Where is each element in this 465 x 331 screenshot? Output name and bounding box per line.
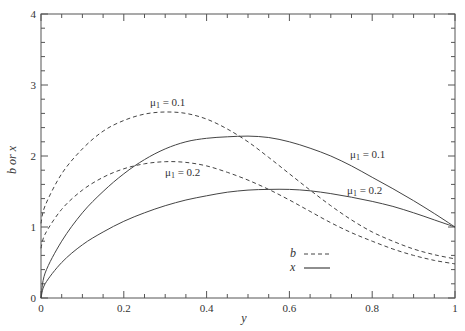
x-tick-label: 0.6 bbox=[283, 302, 297, 314]
axis-ticks bbox=[41, 14, 455, 298]
x-tick-label: 0.2 bbox=[117, 302, 131, 314]
annotation-x-mu-0.1: μ1 = 0.1 bbox=[350, 148, 385, 162]
line-chart: 00.20.40.60.8101234 y b or x μ1 = 0.1 μ1… bbox=[0, 0, 465, 331]
axis-tick-labels: 00.20.40.60.8101234 bbox=[31, 8, 458, 314]
legend: b x bbox=[289, 246, 330, 274]
y-tick-label: 1 bbox=[31, 221, 37, 233]
y-tick-label: 2 bbox=[31, 150, 37, 162]
series-line-3 bbox=[41, 189, 455, 298]
x-tick-label: 0 bbox=[38, 302, 44, 314]
x-tick-label: 0.8 bbox=[365, 302, 379, 314]
annotation-b-mu-0.1: μ1 = 0.1 bbox=[150, 96, 185, 110]
y-tick-label: 0 bbox=[31, 292, 37, 304]
data-series bbox=[41, 112, 455, 298]
annotation-x-mu-0.2: μ1 = 0.2 bbox=[347, 184, 382, 198]
plot-border bbox=[41, 14, 455, 298]
plot-frame bbox=[41, 14, 455, 298]
x-tick-label: 1 bbox=[452, 302, 458, 314]
y-tick-label: 3 bbox=[31, 79, 37, 91]
legend-label-x: x bbox=[289, 260, 296, 274]
series-line-2 bbox=[41, 136, 455, 298]
y-axis-label: b or x bbox=[5, 145, 19, 174]
y-tick-label: 4 bbox=[31, 8, 37, 20]
legend-label-b: b bbox=[290, 246, 296, 260]
annotation-b-mu-0.2: μ1 = 0.2 bbox=[165, 166, 200, 180]
series-line-0 bbox=[41, 112, 455, 259]
x-tick-label: 0.4 bbox=[200, 302, 214, 314]
series-line-1 bbox=[41, 162, 455, 264]
x-axis-label: y bbox=[240, 311, 247, 325]
